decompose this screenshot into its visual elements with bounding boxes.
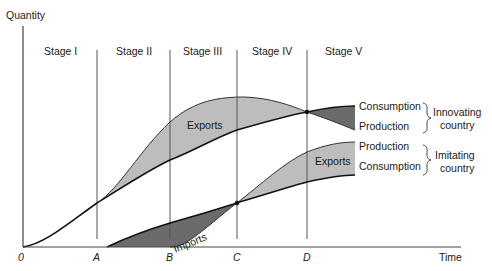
brace-imitating-icon (423, 145, 431, 175)
legend-imitating-production: Production (359, 140, 409, 152)
stage-2-label: Stage II (116, 45, 152, 57)
imitating-exports-region (237, 142, 355, 203)
stage-4-label: Stage IV (252, 45, 292, 57)
stage-1-label: Stage I (44, 45, 77, 57)
tick-b: B (166, 251, 173, 263)
group-imitating-line1: Imitating (435, 149, 475, 161)
intersection-point-d (305, 110, 310, 115)
brace-innovating-icon (423, 103, 431, 133)
stage-5-label: Stage V (325, 45, 362, 57)
group-imitating-line2: country (440, 162, 475, 174)
innovating-imports-region (307, 106, 355, 130)
tick-a: A (92, 251, 100, 263)
legend-imitating-consumption: Consumption (359, 160, 421, 172)
tick-c: C (233, 251, 241, 263)
stage-3-label: Stage III (183, 45, 222, 57)
tick-d: D (303, 251, 311, 263)
legend-innovating-consumption: Consumption (359, 100, 421, 112)
group-innovating-line2: country (440, 119, 475, 131)
innovating-exports-label: Exports (187, 119, 223, 131)
group-innovating-line1: Innovating (433, 106, 482, 118)
intersection-point-c (235, 201, 240, 206)
origin-label: 0 (18, 251, 24, 263)
imitating-exports-label: Exports (315, 155, 351, 167)
product-life-cycle-diagram: Quantity Time 0 A B C D Stage I Stage II… (0, 0, 492, 271)
x-axis-label: Time (439, 251, 462, 263)
y-axis-label: Quantity (6, 9, 46, 21)
legend-innovating-production: Production (359, 120, 409, 132)
